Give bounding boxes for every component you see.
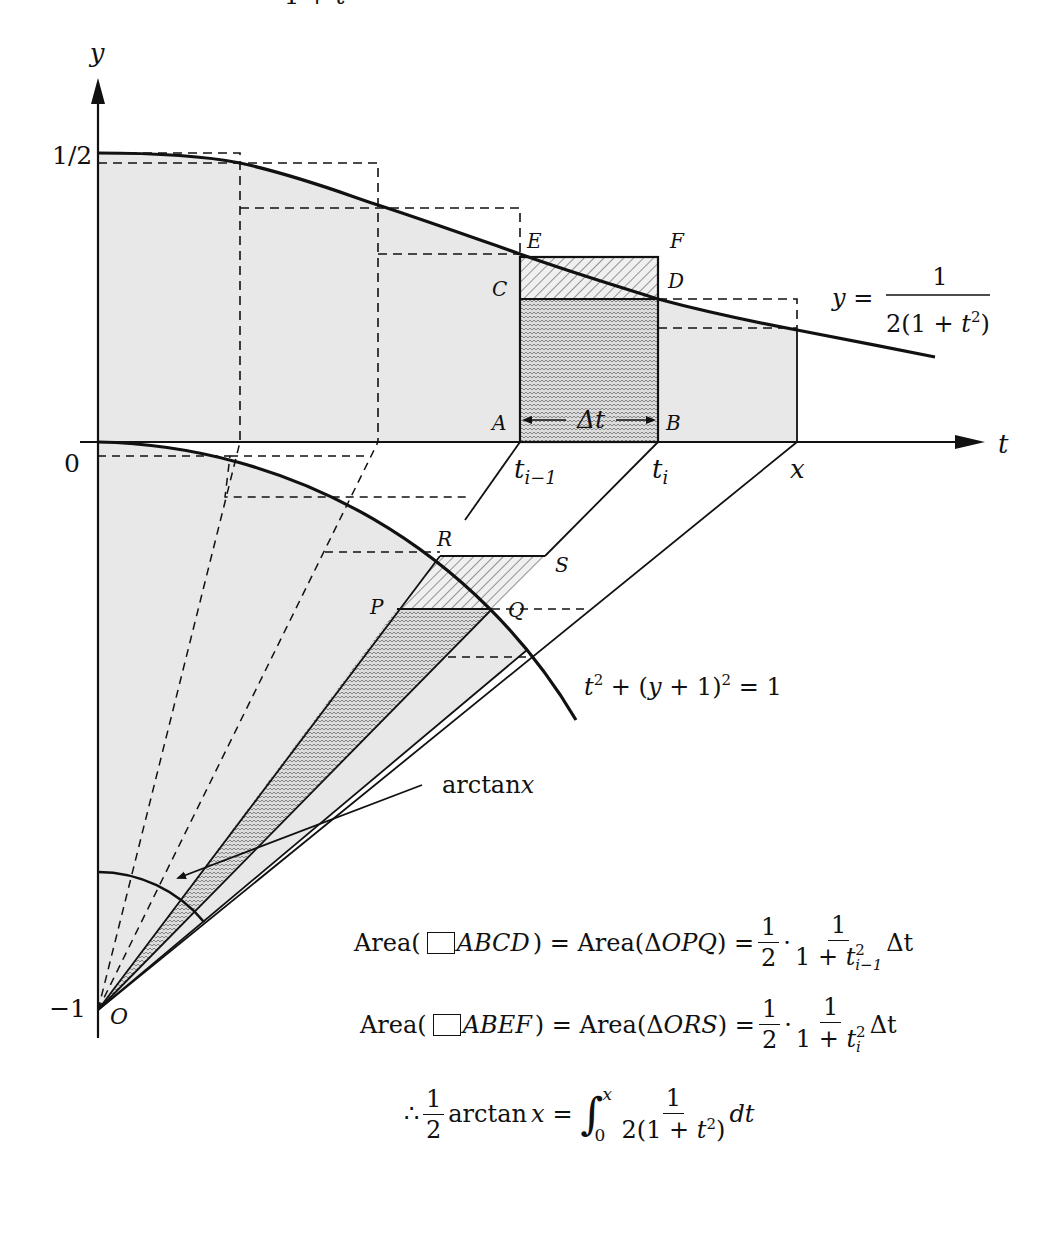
point-s: S <box>555 553 569 577</box>
formula-triangle: ORS <box>664 1011 718 1039</box>
fraction-main: 11 + t2i <box>796 994 866 1055</box>
tick-minus-one: −1 <box>49 994 86 1023</box>
square-icon <box>433 1014 461 1036</box>
square-icon <box>427 932 455 954</box>
tick-half: 1/2 <box>52 141 92 170</box>
formula-text: ) = <box>718 1011 755 1039</box>
dot: · <box>784 1011 792 1039</box>
mark-t-i: ti <box>652 454 668 488</box>
formula-text: ) = Area(Δ <box>533 929 662 957</box>
therefore-symbol: ∴ <box>404 1100 419 1128</box>
integral-symbol: ∫x0 <box>581 1092 604 1136</box>
formula-abef: Area( ABEF ) = Area(Δ ORS ) = 12 · 11 + … <box>360 994 897 1055</box>
point-a: A <box>490 411 506 435</box>
formula-tail: Δt <box>870 1011 897 1039</box>
dot: · <box>783 929 791 957</box>
formula-text: Area( <box>354 929 421 957</box>
function-label-num: 1 <box>932 263 947 291</box>
point-d: D <box>667 269 684 293</box>
arctan-text: arctan <box>448 1100 527 1128</box>
formula-tail: dt <box>729 1100 754 1128</box>
fraction-integrand: 12(1 + t2) <box>622 1085 726 1144</box>
point-p: P <box>369 595 384 619</box>
point-b: B <box>665 411 681 435</box>
formula-triangle: OPQ <box>661 929 717 957</box>
point-r: R <box>436 527 452 551</box>
y-axis-arrow-icon <box>91 78 105 104</box>
formula-conclusion: ∴ 12 arctan x = ∫x0 12(1 + t2) dt <box>404 1085 754 1144</box>
formula-shape: ABCD <box>457 929 530 957</box>
fraction-half: 12 <box>758 914 779 972</box>
point-f: F <box>669 229 685 253</box>
point-o: O <box>110 1004 128 1029</box>
point-e: E <box>526 229 542 253</box>
fraction-half: 12 <box>423 1086 444 1144</box>
formula-abcd: Area( ABCD ) = Area(Δ OPQ ) = 12 · 11 + … <box>354 912 913 973</box>
mark-t-prev: ti−1 <box>514 454 557 488</box>
area-under-curve <box>98 153 797 442</box>
point-q: Q <box>508 598 524 622</box>
function-label-lhs: y = <box>831 284 873 312</box>
equals: = <box>552 1100 572 1128</box>
function-label-den: 2(1 + t2) <box>886 308 990 338</box>
circle-label: t2 + (y + 1)2 = 1 <box>584 671 782 701</box>
t-axis-label: t <box>998 429 1009 459</box>
formula-tail: Δt <box>886 929 913 957</box>
arctan-label: arctanx <box>442 771 535 799</box>
t-axis-arrow-icon <box>955 435 985 449</box>
y-axis-label: y <box>89 38 105 68</box>
diagram-canvas: y t 1/2 0 −1 E F C D A B Δt ti−1 ti x R … <box>0 0 1055 1246</box>
mark-x: x <box>790 454 805 484</box>
delta-t-label: Δt <box>576 405 606 434</box>
fraction-half: 12 <box>759 996 780 1054</box>
fraction-main: 11 + t2i−1 <box>795 912 882 973</box>
formula-var: x <box>531 1100 545 1128</box>
formula-text: Area( <box>360 1011 427 1039</box>
point-c: C <box>492 277 507 301</box>
tick-zero: 0 <box>64 449 80 478</box>
header-partial-formula: 1 + t <box>284 0 345 10</box>
formula-shape: ABEF <box>463 1011 532 1039</box>
formula-text: ) = Area(Δ <box>535 1011 664 1039</box>
formula-text: ) = <box>717 929 754 957</box>
